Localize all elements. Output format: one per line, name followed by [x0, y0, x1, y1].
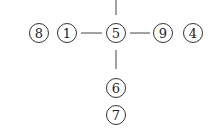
svg-text:5: 5 — [112, 26, 120, 41]
svg-text:1: 1 — [63, 26, 71, 41]
node-5: 5 — [107, 24, 126, 43]
svg-text:4: 4 — [189, 26, 197, 41]
svg-text:9: 9 — [159, 26, 167, 41]
node-4: 4 — [184, 24, 203, 43]
svg-text:8: 8 — [35, 26, 43, 41]
node-8: 8 — [30, 24, 49, 43]
svg-text:6: 6 — [112, 81, 120, 96]
tree-diagram: 8 1 5 9 4 6 7 — [0, 0, 218, 137]
node-7: 7 — [107, 106, 126, 125]
node-1: 1 — [58, 24, 77, 43]
node-6: 6 — [107, 79, 126, 98]
node-9: 9 — [154, 24, 173, 43]
svg-text:7: 7 — [112, 108, 120, 123]
